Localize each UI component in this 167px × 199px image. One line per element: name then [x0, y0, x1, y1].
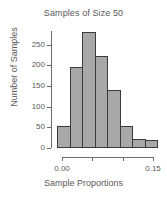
y-axis-tick-label-wrap: 0: [0, 144, 45, 152]
x-axis-tick-label-wrap: 0.00: [42, 164, 82, 173]
histogram-bar: [145, 140, 159, 148]
x-axis-tick-label: 0.00: [42, 164, 82, 173]
x-axis-title: Sample Proportions: [0, 178, 167, 188]
y-axis-tick: [47, 127, 51, 128]
histogram-bar: [82, 32, 96, 148]
chart-title: Samples of Size 50: [0, 8, 167, 18]
x-axis-tick: [123, 157, 124, 161]
y-axis-line: [51, 31, 52, 148]
y-axis-tick-label: 0: [1, 144, 45, 152]
x-axis-tick: [92, 157, 93, 161]
histogram-bar: [120, 126, 134, 148]
histogram-bar: [107, 90, 121, 148]
x-axis-line: [62, 157, 153, 158]
y-axis-tick: [47, 148, 51, 149]
x-axis-tick-label-wrap: 0.15: [133, 164, 167, 173]
y-axis-tick-label: 200: [1, 61, 45, 69]
histogram-bar: [70, 67, 84, 148]
y-axis-tick-label: 50: [1, 123, 45, 131]
y-axis-tick: [47, 45, 51, 46]
y-axis-tick: [47, 65, 51, 66]
histogram-bars: [57, 28, 157, 148]
y-axis-tick-label-wrap: 250: [0, 41, 45, 49]
y-axis-tick-label-wrap: 100: [0, 103, 45, 111]
y-axis-tick: [47, 86, 51, 87]
y-axis-tick-label: 150: [1, 82, 45, 90]
y-axis-tick-label: 250: [1, 41, 45, 49]
x-axis-tick: [153, 157, 154, 161]
y-axis-tick: [47, 107, 51, 108]
y-axis-tick-label-wrap: 200: [0, 61, 45, 69]
histogram-plot: Samples of Size 50 Number of Samples 050…: [0, 0, 167, 199]
histogram-bar: [57, 126, 71, 148]
y-axis-tick-label: 100: [1, 103, 45, 111]
histogram-bar: [95, 56, 109, 148]
y-axis-tick-label-wrap: 50: [0, 123, 45, 131]
x-axis-tick-label: 0.15: [133, 164, 167, 173]
x-axis-tick: [62, 157, 63, 161]
histogram-bar: [132, 139, 146, 148]
plot-panel: [57, 28, 157, 148]
y-axis-tick-label-wrap: 150: [0, 82, 45, 90]
